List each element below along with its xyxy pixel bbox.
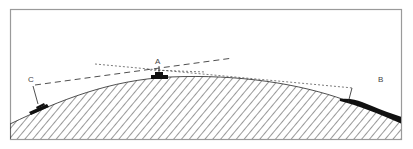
label-a: A (155, 57, 161, 66)
line-of-sight-diagram: A C B (0, 0, 413, 149)
label-c: C (28, 75, 34, 84)
label-b: B (378, 75, 383, 84)
